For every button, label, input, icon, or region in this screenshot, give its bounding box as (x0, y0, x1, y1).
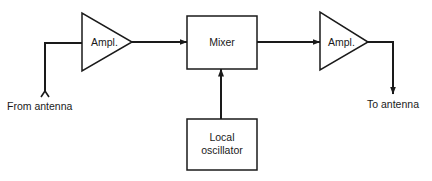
mixer-label: Mixer (209, 36, 235, 48)
antenna-icon (41, 91, 49, 97)
to-antenna-label: To antenna (367, 98, 419, 110)
input-antenna-line (41, 43, 82, 97)
arrow-ampl2-to-antenna (368, 42, 393, 94)
local-oscillator-label-line2: oscillator (201, 144, 243, 156)
local-oscillator-label-line1: Local (209, 131, 234, 143)
amplifier-1-label: Ampl. (91, 36, 118, 48)
amplifier-2-label: Ampl. (328, 36, 355, 48)
block-diagram: From antenna Ampl. Mixer Ampl. To antenn… (0, 0, 432, 181)
from-antenna-label: From antenna (7, 100, 73, 112)
